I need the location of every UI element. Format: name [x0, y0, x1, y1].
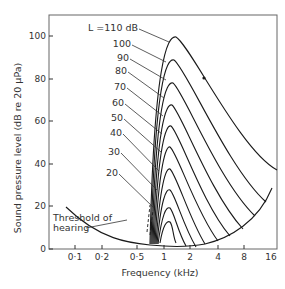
masking-chart: 0 20 40 60 80 100 Sound pressure level (… — [0, 0, 285, 289]
y-tick-label: 0 — [40, 244, 46, 254]
curve-label-110: L =110 dB — [88, 22, 138, 33]
x-tick-label: 2 — [187, 252, 193, 262]
x-tick-label: 0·2 — [95, 252, 109, 262]
curve-label-20: 20 — [106, 167, 118, 178]
y-tick-label: 40 — [35, 159, 47, 169]
curve-labels: L =110 dB 100 90 80 70 60 50 40 30 20 — [88, 22, 169, 208]
marker-dot — [202, 76, 205, 79]
y-tick-label: 60 — [35, 116, 47, 126]
y-tick-label: 20 — [35, 201, 47, 211]
x-tick-label: 8 — [241, 252, 247, 262]
x-tick-label: 0·1 — [68, 252, 82, 262]
curve-label-50: 50 — [111, 112, 123, 123]
x-tick-label: 0·5 — [130, 252, 144, 262]
curve-label-100: 100 — [113, 38, 131, 49]
curve-label-30: 30 — [108, 146, 120, 157]
curve-label-80: 80 — [115, 65, 127, 76]
curve-label-40: 40 — [110, 127, 122, 138]
threshold-label-line2: hearing — [53, 222, 89, 233]
masking-curves — [147, 37, 277, 247]
y-axis: 0 20 40 60 80 100 Sound pressure level (… — [12, 31, 53, 254]
curve-label-90: 90 — [117, 52, 129, 63]
curve-label-70: 70 — [114, 81, 126, 92]
x-tick-label: 4 — [215, 252, 221, 262]
y-tick-label: 100 — [29, 31, 46, 41]
x-tick-label: 1 — [161, 252, 167, 262]
y-tick-label: 80 — [35, 74, 47, 84]
x-axis-title: Frequency (kHz) — [121, 267, 198, 278]
curve-label-60: 60 — [112, 97, 124, 108]
threshold-annotation: Threshold of hearing — [52, 212, 127, 233]
y-axis-title: Sound pressure level (dB re 20 µPa) — [12, 63, 23, 233]
x-axis: 0·1 0·2 0·5 1 2 4 8 16 Frequency (kHz) — [68, 245, 277, 278]
x-tick-label: 16 — [265, 252, 277, 262]
